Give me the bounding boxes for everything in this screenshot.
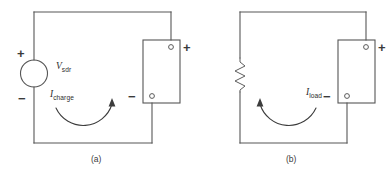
- battery-negative-terminal-b: [345, 94, 350, 99]
- panel-a: + − Vsdr Icharge + − (a): [0, 0, 196, 176]
- battery-plus-sign-a: +: [183, 41, 191, 54]
- panel-caption-a: (a): [91, 155, 101, 164]
- panel-b-schematic: [196, 0, 392, 176]
- current-arc-b: [260, 104, 316, 125]
- voltage-source-subscript-a: sdr: [62, 66, 71, 73]
- current-arc-a: [56, 104, 112, 125]
- battery-positive-terminal-b: [364, 45, 369, 50]
- panel-b: Iload + − (b): [196, 0, 392, 176]
- current-arrowhead-a: [109, 98, 116, 106]
- panel-a-schematic: [0, 0, 196, 176]
- voltage-source-label-a: Vsdr: [56, 62, 71, 73]
- current-subscript-b: load: [309, 92, 322, 99]
- resistor-symbol-b: [235, 58, 245, 92]
- panel-caption-b: (b): [286, 155, 296, 164]
- current-label-a: Icharge: [50, 90, 74, 101]
- battery-plus-sign-b: +: [378, 41, 386, 54]
- current-subscript-a: charge: [53, 94, 74, 101]
- circuit-figure: + − Vsdr Icharge + − (a) Iload +: [0, 0, 392, 176]
- battery-body-b: [338, 40, 375, 103]
- battery-body-a: [143, 40, 180, 103]
- source-plus-sign-a: +: [17, 47, 25, 60]
- battery-minus-sign-b: −: [323, 90, 331, 103]
- battery-positive-terminal-a: [169, 45, 174, 50]
- voltage-source-symbol-a: [21, 60, 48, 87]
- source-minus-sign-a: −: [18, 92, 26, 105]
- current-arrowhead-b: [257, 98, 264, 106]
- current-label-b: Iload: [306, 88, 322, 99]
- battery-minus-sign-a: −: [128, 90, 136, 103]
- battery-negative-terminal-a: [150, 94, 155, 99]
